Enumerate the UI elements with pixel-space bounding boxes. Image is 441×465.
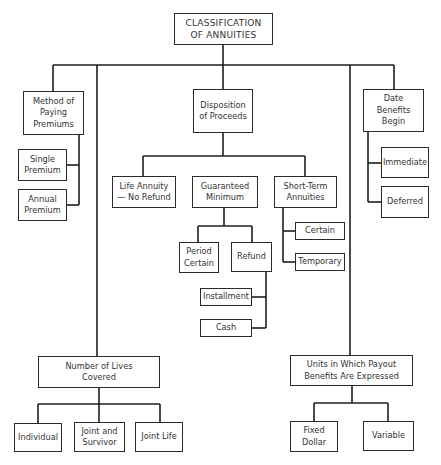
node-variable: Variable [363, 421, 414, 451]
node-method-of-paying-premiums: Method of Paying Premiums [23, 91, 84, 135]
node-immediate: Immediate [381, 147, 429, 178]
node-installment: Installment [200, 288, 252, 306]
node-life-annuity-no-refund: Life Annuity — No Refund [112, 176, 176, 208]
node-temporary: Temporary [295, 253, 345, 271]
node-units-payout-benefits: Units in Which Payout Benefits Are Expre… [290, 355, 413, 386]
root-node-classification-of-annuities: CLASSIFICATION OF ANNUITIES [174, 13, 273, 45]
node-individual: Individual [14, 423, 62, 452]
node-cash: Cash [200, 319, 252, 337]
node-deferred: Deferred [381, 186, 429, 218]
node-short-term-annuities: Short-Term Annuities [274, 176, 337, 208]
node-certain: Certain [295, 222, 345, 240]
node-refund: Refund [231, 242, 272, 272]
annuity-classification-diagram: CLASSIFICATION OF ANNUITIES Method of Pa… [0, 0, 441, 465]
node-guaranteed-minimum: Guaranteed Minimum [192, 176, 258, 208]
node-date-benefits-begin: Date Benefits Begin [363, 89, 424, 132]
connector-lines [0, 0, 441, 465]
node-joint-and-survivor: Joint and Survivor [74, 422, 125, 452]
node-single-premium: Single Premium [18, 149, 67, 181]
node-joint-life: Joint Life [135, 422, 183, 452]
node-annual-premium: Annual Premium [18, 189, 67, 221]
node-number-of-lives-covered: Number of Lives Covered [38, 356, 160, 388]
node-period-certain: Period Certain [179, 242, 219, 273]
node-disposition-of-proceeds: Disposition of Proceeds [193, 89, 253, 133]
node-fixed-dollar: Fixed Dollar [290, 421, 338, 452]
